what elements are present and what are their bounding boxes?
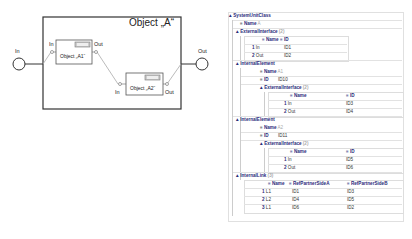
tree-attr-name: ≡ Name A [240,20,261,28]
a2-in-port-label: In [115,89,120,95]
table-cell-id: ID3 [346,100,353,108]
table-row[interactable]: 3 L1 [262,204,271,212]
outer-object-title: Object „A“ [129,17,174,28]
a2-object-title: Object „A2“ [130,85,155,91]
table-cell-id: ID1 [284,44,291,52]
tree-node-internallink[interactable]: ▴ InternalLink (3) [236,172,273,180]
a1-in-port-label: In [49,41,54,47]
table-row[interactable]: 1 L1 [262,188,271,196]
outer-out-port-label: Out [198,48,207,54]
table-row[interactable]: 1 In [252,44,260,52]
a2-out-port-label: Out [165,89,174,95]
table-cell-id: ID5 [346,156,353,164]
table-row[interactable]: 2 Out [252,52,263,60]
tree-node-externalinterface[interactable]: ▴ ExternalInterface (2) [260,140,308,148]
a1-object-title: Object „A1“ [60,53,85,59]
table-cell-side-a: ID6 [292,204,299,212]
tree-root-systemunitclass[interactable]: ▴ SystemUnitClass [229,12,271,20]
column-header-name[interactable]: ≡ Name [262,36,278,44]
table-cell-side-b: ID2 [347,204,354,212]
table-cell-side-a: ID1 [292,188,299,196]
table-row[interactable]: 2 Out [284,108,295,116]
table-cell-id: ID2 [284,52,291,60]
table-row[interactable]: 1 In [284,156,292,164]
table-row[interactable]: 1 In [284,100,292,108]
id-value: ID11 [278,132,287,140]
tree-node-internalelement-a1[interactable]: ▴ InternalElement [236,60,275,68]
table-cell-id: ID6 [346,164,353,172]
column-header-id[interactable]: ≡ ID [280,36,289,44]
object-diagram [0,0,220,239]
table-cell-side-b: ID3 [347,188,354,196]
id-value: ID10 [278,76,288,84]
tree-node-externalinterface[interactable]: ▴ ExternalInterface (2) [260,84,308,92]
tree-node-internalelement-a2[interactable]: ▴ InternalElement [236,116,275,124]
outer-in-port-label: In [15,48,20,54]
table-cell-id: ID4 [346,108,353,116]
table-cell-side-a: ID4 [292,196,299,204]
tree-node-externalinterface[interactable]: ▴ ExternalInterface (2) [236,28,284,36]
a1-out-port-label: Out [94,41,103,47]
table-row[interactable]: 2 Out [284,164,295,172]
table-cell-side-b: ID5 [347,196,354,204]
table-row[interactable]: 2 L2 [262,196,271,204]
